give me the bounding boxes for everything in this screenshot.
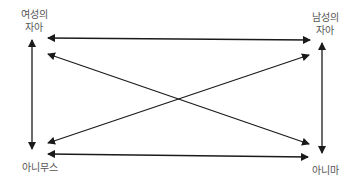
node-female-ego: 여성의 자아 <box>17 8 51 34</box>
diagram-canvas <box>0 0 361 188</box>
node-anima: 아니마 <box>305 164 345 177</box>
arrow-animus-male-ego <box>48 55 309 143</box>
node-male-ego: 남성의 자아 <box>308 11 342 37</box>
arrow-female-ego-male-ego <box>48 38 310 40</box>
arrow-animus-anima <box>48 154 308 157</box>
node-animus: 아니무스 <box>15 161 65 174</box>
